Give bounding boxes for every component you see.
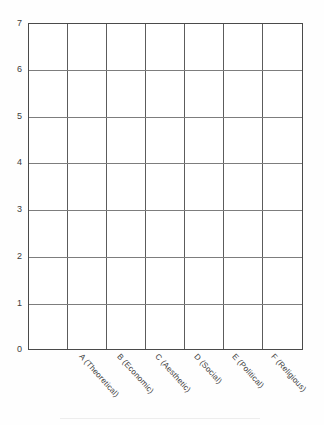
gridline-horizontal	[29, 210, 302, 211]
chart-page: 7 6 5 4 3 2 1 0 A (Theoretical) B (Econo…	[0, 0, 324, 425]
scan-artifact-line	[60, 418, 260, 419]
gridline-horizontal	[29, 257, 302, 258]
gridline-vertical	[223, 24, 224, 349]
gridline-vertical	[262, 24, 263, 349]
y-tick-label: 6	[17, 65, 22, 74]
gridline-vertical	[145, 24, 146, 349]
gridline-vertical	[184, 24, 185, 349]
y-axis: 7 6 5 4 3 2 1 0	[0, 0, 28, 350]
gridline-horizontal	[29, 163, 302, 164]
gridline-vertical	[106, 24, 107, 349]
x-tick-label-f: F (Religious)	[269, 352, 308, 394]
y-tick-label: 4	[17, 158, 22, 167]
y-tick-label: 7	[17, 19, 22, 28]
gridline-horizontal	[29, 70, 302, 71]
gridline-horizontal	[29, 117, 302, 118]
x-tick-label-e: E (Political)	[230, 352, 266, 390]
x-tick-label-d: D (Social)	[192, 352, 224, 386]
y-tick-label: 1	[17, 299, 22, 308]
gridline-horizontal	[29, 304, 302, 305]
gridline-vertical	[67, 24, 68, 349]
x-tick-label-b: B (Economic)	[115, 352, 155, 395]
y-tick-label: 3	[17, 205, 22, 214]
x-tick-label-a: A (Theoretical)	[77, 352, 121, 399]
y-tick-label: 5	[17, 112, 22, 121]
plot-area	[28, 23, 303, 350]
x-tick-label-c: C (Aesthetic)	[153, 352, 192, 394]
y-tick-label: 2	[17, 252, 22, 261]
x-axis: A (Theoretical) B (Economic) C (Aestheti…	[0, 350, 324, 425]
